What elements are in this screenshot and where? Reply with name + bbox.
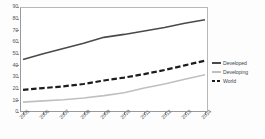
y-axis-tick-mark bbox=[16, 54, 19, 55]
series-line-world bbox=[23, 61, 205, 90]
line-chart: 9080706050403020100 20052006200720082009… bbox=[0, 0, 265, 139]
legend-label: Developed bbox=[223, 60, 247, 66]
legend-swatch-icon bbox=[212, 71, 221, 73]
y-axis-tick-mark bbox=[16, 89, 19, 90]
legend-item-world[interactable]: World bbox=[212, 77, 264, 85]
chart-series-canvas bbox=[20, 7, 208, 112]
legend-item-developing[interactable]: Developing bbox=[212, 68, 264, 76]
series-line-developed bbox=[23, 20, 205, 60]
chart-legend: DevelopedDevelopingWorld bbox=[212, 59, 264, 86]
y-axis-tick-mark bbox=[16, 42, 19, 43]
y-axis-tick-mark bbox=[16, 77, 19, 78]
legend-label: World bbox=[223, 78, 236, 84]
y-axis-tick-labels: 9080706050403020100 bbox=[0, 0, 18, 139]
y-axis-tick-mark bbox=[16, 112, 19, 113]
y-axis-tick-mark bbox=[16, 100, 19, 101]
y-axis-tick-mark bbox=[16, 19, 19, 20]
legend-item-developed[interactable]: Developed bbox=[212, 59, 264, 67]
y-axis-tick-mark bbox=[16, 30, 19, 31]
y-axis-tick-mark bbox=[16, 7, 19, 8]
legend-swatch-icon bbox=[212, 80, 221, 82]
legend-label: Developing bbox=[223, 69, 248, 75]
y-axis-tick-mark bbox=[16, 65, 19, 66]
legend-swatch-icon bbox=[212, 62, 221, 64]
